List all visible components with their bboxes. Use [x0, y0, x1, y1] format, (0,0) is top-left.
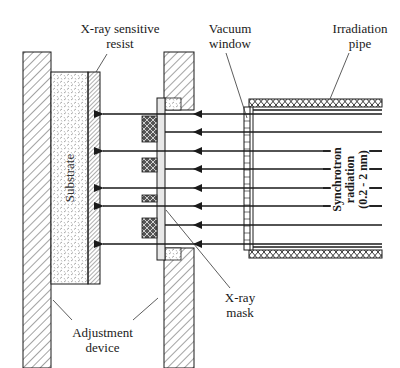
synchrotron-label: Synchrotron radiation (0.2 - 2 nm) — [331, 144, 370, 216]
resist-label: X-ray sensitive resist — [70, 21, 170, 51]
irradiation-pipe-label: Irradiation pipe — [320, 21, 400, 51]
vacuum-window-label: Vacuum window — [200, 21, 260, 51]
adjustment-device-right — [164, 52, 194, 368]
substrate-label: Substrate — [62, 148, 78, 208]
xray-mask-label: X-ray mask — [215, 290, 265, 320]
resist-layer — [88, 72, 100, 284]
absorber-patterns — [142, 116, 157, 238]
mask-membrane — [157, 98, 165, 260]
vacuum-window — [244, 107, 250, 250]
adjustment-device-left — [23, 52, 51, 368]
adjustment-device-label: Adjustment device — [60, 325, 145, 355]
